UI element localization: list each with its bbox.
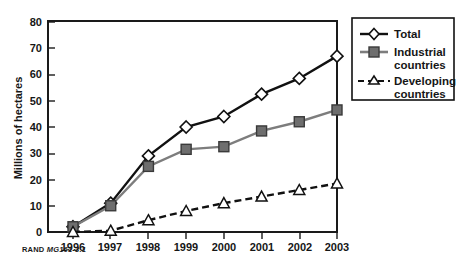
datapoint-total-2002: [293, 72, 305, 84]
x-tick-2000: 2000: [212, 241, 236, 253]
datapoint-industrial-countries-2002: [294, 117, 304, 127]
datapoint-industrial-countries-1998: [143, 161, 153, 171]
x-tick-1998: 1998: [136, 241, 160, 253]
x-tick-2003: 2003: [325, 241, 349, 253]
datapoint-total-2001: [256, 88, 268, 100]
datapoint-developing-countries-1999: [181, 206, 192, 216]
line-chart: Millions of hectares 80 70 60 50 40 30 2…: [0, 0, 462, 274]
x-tick-1997: 1997: [98, 241, 122, 253]
caption-source: RAND: [22, 245, 44, 254]
square-icon: [369, 47, 379, 57]
y-tick-40: 40: [30, 121, 42, 133]
datapoint-total-2000: [218, 111, 230, 123]
series-industrial-countries: [68, 105, 342, 232]
chart-legend: Total Industrial countries Developing co…: [352, 18, 456, 100]
y-tick-50: 50: [30, 95, 42, 107]
legend-label-total: Total: [394, 28, 421, 40]
x-tick-2001: 2001: [250, 241, 274, 253]
y-tick-60: 60: [30, 68, 42, 80]
figure-caption: RAND MG161-3.1: [22, 245, 86, 254]
datapoint-total-2003: [331, 50, 343, 62]
x-axis-tick-labels: 1996 1997 1998 1999 2000 2001 2002 2003: [61, 241, 349, 253]
chart-figure: Millions of hectares 80 70 60 50 40 30 2…: [0, 0, 462, 274]
y-axis-tick-labels: 80 70 60 50 40 30 20 10 0: [30, 16, 42, 238]
legend-label-developing-line1: Developing: [394, 75, 456, 87]
x-tick-2002: 2002: [288, 241, 312, 253]
legend-label-industrial-line1: Industrial: [394, 46, 446, 58]
plot-series-group: [67, 50, 343, 236]
datapoint-industrial-countries-2001: [257, 126, 267, 136]
datapoint-industrial-countries-2003: [332, 105, 342, 115]
legend-label-industrial-line2: countries: [394, 59, 446, 71]
caption-figure-id: MG161-3.1: [47, 245, 86, 254]
datapoint-industrial-countries-1997: [106, 201, 116, 211]
y-tick-80: 80: [30, 16, 42, 28]
y-axis-ticks: [48, 22, 55, 206]
y-tick-10: 10: [30, 200, 42, 212]
datapoint-industrial-countries-1999: [181, 144, 191, 154]
y-tick-30: 30: [30, 147, 42, 159]
y-tick-20: 20: [30, 174, 42, 186]
legend-label-developing-line2: countries: [394, 88, 446, 100]
y-tick-70: 70: [30, 42, 42, 54]
y-tick-0: 0: [36, 226, 42, 238]
datapoint-industrial-countries-2000: [219, 142, 229, 152]
y-axis-title: Millions of hectares: [12, 77, 24, 180]
x-tick-1999: 1999: [174, 241, 198, 253]
